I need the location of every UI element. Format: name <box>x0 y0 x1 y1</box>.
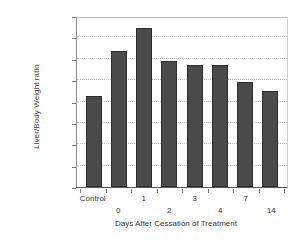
bar-slot <box>132 18 157 187</box>
plot-area <box>76 17 288 188</box>
x-axis-tick-mark <box>157 189 158 193</box>
bar <box>86 96 102 187</box>
bar-slot <box>233 18 258 187</box>
bar-series <box>77 18 287 187</box>
x-axis-tick-mark <box>80 189 81 193</box>
x-axis-tick-mark <box>233 189 234 193</box>
x-axis-category-label: 1 <box>116 194 172 203</box>
y-axis-title: Liver/Body Weight ratio <box>32 27 41 187</box>
bar-slot <box>258 18 283 187</box>
x-axis-category-label: 14 <box>243 206 297 215</box>
chart-figure: Liver/Body Weight ratio 00.010.020.030.0… <box>0 0 297 240</box>
y-axis-tick-mark <box>72 188 76 189</box>
x-axis-tick-mark <box>106 189 107 193</box>
bar-slot <box>106 18 131 187</box>
bar <box>237 82 253 187</box>
bar-slot <box>81 18 106 187</box>
bar <box>212 65 228 187</box>
x-axis-category-label: 3 <box>167 194 223 203</box>
x-axis-category-label: 0 <box>90 206 146 215</box>
x-axis-tick-mark <box>208 189 209 193</box>
bar-slot <box>207 18 232 187</box>
x-axis-tick-mark <box>259 189 260 193</box>
bar <box>136 28 152 187</box>
bar <box>161 61 177 187</box>
x-axis-category-label: 4 <box>192 206 248 215</box>
bar <box>187 65 203 187</box>
x-axis-title: Days After Cessation of Treatment <box>60 219 292 228</box>
x-axis-tick-mark <box>182 189 183 193</box>
bar-slot <box>157 18 182 187</box>
x-axis-tick-mark <box>131 189 132 193</box>
bar <box>111 51 127 187</box>
bar <box>262 91 278 187</box>
x-axis-category-label: 7 <box>218 194 274 203</box>
bar-slot <box>182 18 207 187</box>
x-axis-category-label: Control <box>65 194 121 203</box>
x-axis-tick-mark <box>284 189 285 193</box>
x-axis-category-label: 2 <box>141 206 197 215</box>
